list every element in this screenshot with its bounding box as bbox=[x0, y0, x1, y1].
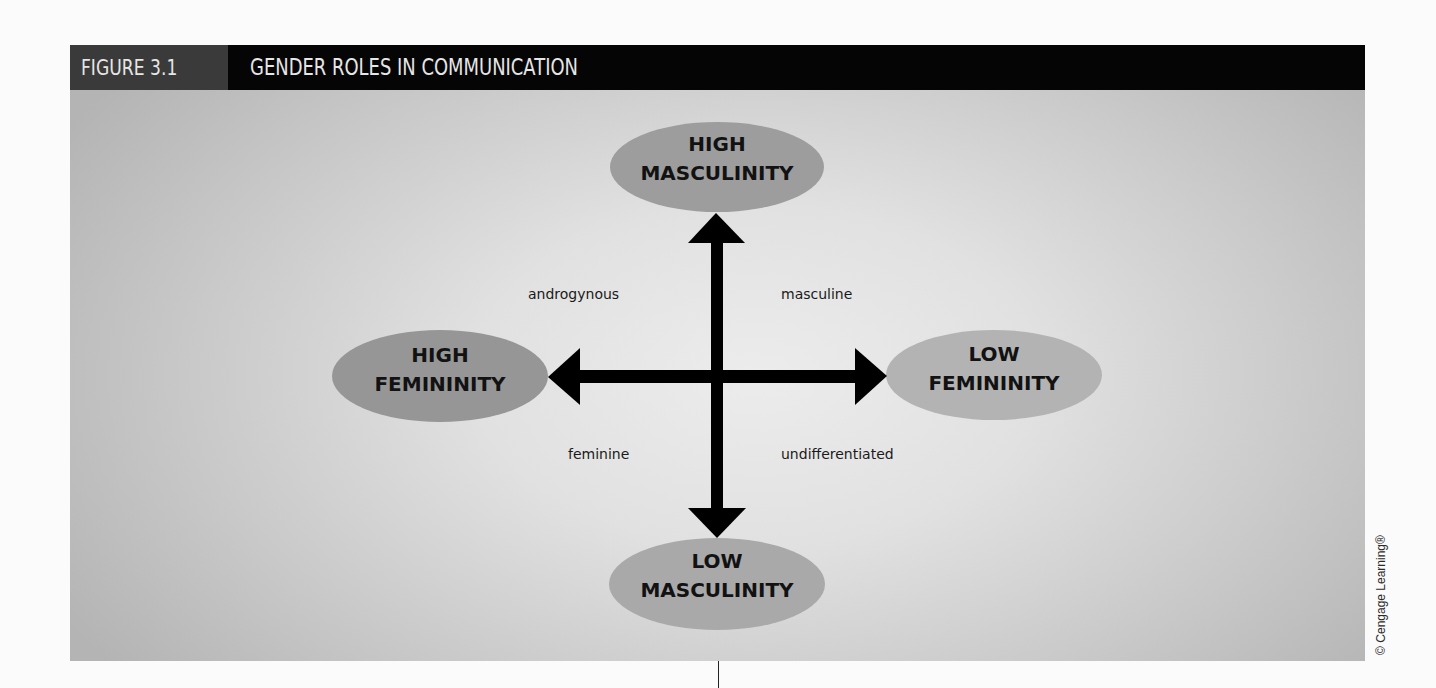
node-high-masculinity-label: HIGH MASCULINITY bbox=[617, 130, 817, 188]
quadrant-label-undifferentiated: undifferentiated bbox=[781, 446, 894, 462]
quadrant-label-masculine: masculine bbox=[781, 286, 852, 302]
node-low-femininity-label: LOW FEMININITY bbox=[894, 340, 1094, 398]
quadrant-label-feminine: feminine bbox=[568, 446, 629, 462]
arrow-up-icon bbox=[688, 213, 745, 243]
node-low-masculinity-label: LOW MASCULINITY bbox=[617, 547, 817, 605]
arrow-left-icon bbox=[548, 348, 580, 405]
page-column-divider bbox=[718, 661, 719, 688]
arrow-right-icon bbox=[855, 348, 887, 405]
quadrant-label-androgynous: androgynous bbox=[528, 286, 619, 302]
node-high-femininity-label: HIGH FEMININITY bbox=[340, 341, 540, 399]
horizontal-axis-shaft bbox=[576, 370, 858, 383]
arrow-down-icon bbox=[688, 508, 746, 538]
copyright-credit: © Cengage Learning® bbox=[1374, 535, 1388, 655]
